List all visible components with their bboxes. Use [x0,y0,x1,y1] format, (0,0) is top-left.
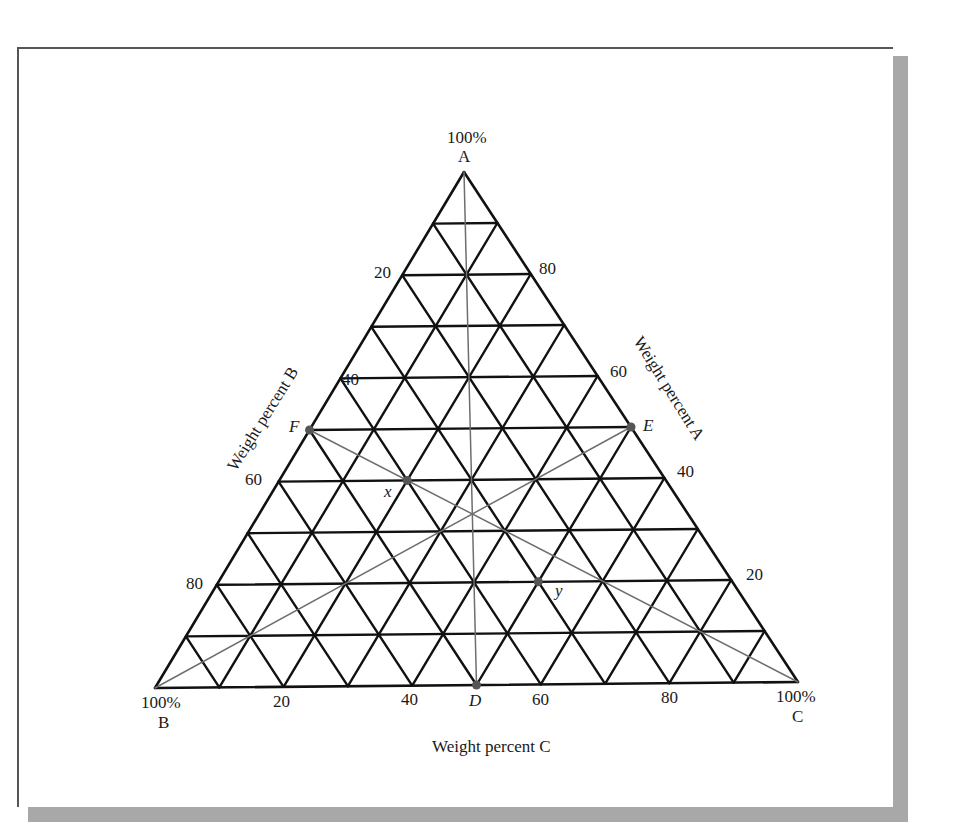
vertex-b-label: B [158,713,169,732]
point-f-marker [305,426,314,435]
point-e-marker [627,423,636,432]
point-d-label: D [468,691,482,710]
axis-c-title: Weight percent C [432,737,551,756]
vertex-c-label: C [792,707,803,726]
b-tick-60: 60 [245,470,262,489]
point-d-marker [472,681,481,690]
point-x-marker [403,476,412,485]
point-x-label: x [383,482,392,501]
ternary-diagram: 100% A 100% B 100% C 20 40 60 80 80 60 4… [0,0,956,837]
a-tick-40: 40 [677,462,694,481]
vertex-a-percent: 100% [447,128,487,147]
vertex-c-percent: 100% [776,687,816,706]
c-tick-20: 20 [273,692,290,711]
vertex-b-percent: 100% [141,693,181,712]
vertex-a-label: A [458,147,471,166]
a-tick-60: 60 [610,362,627,381]
c-tick-60: 60 [532,690,549,709]
a-tick-80: 80 [539,259,556,278]
axis-a-title: Weight percent A [630,333,709,444]
b-tick-80: 80 [186,574,203,593]
point-y-marker [534,577,543,586]
point-y-label: y [553,581,563,600]
a-tick-20: 20 [746,565,763,584]
point-f-label: F [288,417,300,436]
b-tick-40: 40 [342,370,359,389]
c-tick-80: 80 [661,688,678,707]
line-f-c [310,430,799,682]
b-tick-20: 20 [374,263,391,282]
point-e-label: E [642,416,654,435]
c-tick-40: 40 [401,690,418,709]
